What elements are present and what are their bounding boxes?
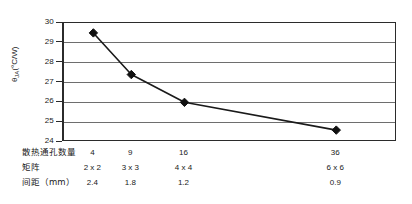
table-cell: 1.8 bbox=[105, 177, 155, 188]
table-cell: 0.9 bbox=[310, 177, 360, 188]
parameter-table: 散热通孔数量491636矩阵2 x 23 x 34 x 46 x 6间距（mm）… bbox=[0, 147, 412, 197]
data-series-layer bbox=[63, 23, 397, 142]
table-cell: 9 bbox=[105, 147, 155, 158]
table-cell: 1.2 bbox=[158, 177, 208, 188]
y-tick-label: 30 bbox=[8, 18, 54, 26]
table-row: 矩阵2 x 23 x 34 x 46 x 6 bbox=[0, 162, 412, 177]
table-cell: 36 bbox=[310, 147, 360, 158]
table-cell: 4 x 4 bbox=[158, 162, 208, 173]
y-tick-label: 24 bbox=[8, 137, 54, 145]
thermal-resistance-figure: θJA(°C/W) 30292827262524 散热通孔数量491636矩阵2… bbox=[0, 0, 412, 204]
y-axis-line bbox=[62, 22, 64, 141]
table-row: 间距（mm）2.41.81.20.9 bbox=[0, 177, 412, 192]
table-row: 散热通孔数量491636 bbox=[0, 147, 412, 162]
plot-area bbox=[62, 22, 396, 141]
y-tick-label: 26 bbox=[8, 97, 54, 105]
data-point-marker bbox=[180, 98, 188, 106]
table-cell: 16 bbox=[158, 147, 208, 158]
data-point-marker bbox=[332, 126, 340, 134]
y-tick-label: 28 bbox=[8, 58, 54, 66]
series-markers bbox=[89, 29, 340, 135]
table-cell: 6 x 6 bbox=[310, 162, 360, 173]
y-tick-label: 25 bbox=[8, 117, 54, 125]
series-line bbox=[93, 33, 336, 130]
table-cell: 3 x 3 bbox=[105, 162, 155, 173]
y-tick-label: 27 bbox=[8, 78, 54, 86]
y-tick-label: 29 bbox=[8, 38, 54, 46]
